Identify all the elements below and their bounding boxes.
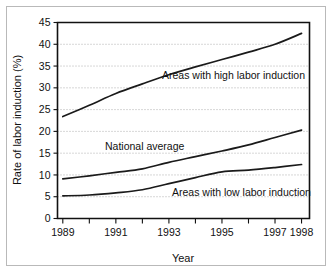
series-lines [63, 33, 302, 195]
x-tick-label: 1993 [157, 226, 181, 238]
y-tick-label: 15 [39, 147, 51, 159]
x-tick-label: 1998 [290, 226, 314, 238]
y-tick-label: 40 [39, 38, 51, 50]
series-label-national: National average [105, 140, 185, 152]
y-axis-title: Rate of labor induction (%) [11, 55, 23, 185]
series-label-low: Areas with low labor induction [172, 186, 311, 198]
x-tick-label: 1989 [51, 226, 75, 238]
y-tick-label: 35 [39, 60, 51, 72]
x-tick-label: 1991 [104, 226, 128, 238]
x-axis-title: Year [172, 252, 195, 264]
series-label-high: Areas with high labor induction [162, 69, 305, 81]
y-tick-label: 0 [45, 212, 51, 224]
x-axis-tick-labels: 198919911993199519971998 [51, 226, 313, 238]
chart-figure: 051015202530354045 198919911993199519971… [0, 0, 333, 273]
x-tick-label: 1995 [210, 226, 234, 238]
gridlines [58, 44, 310, 196]
line-chart: 051015202530354045 198919911993199519971… [0, 0, 333, 273]
y-tick-label: 30 [39, 81, 51, 93]
x-tick-label: 1997 [263, 226, 287, 238]
y-tick-label: 5 [45, 190, 51, 202]
series-line [63, 130, 302, 179]
y-tick-label: 20 [39, 125, 51, 137]
y-axis-tick-labels: 051015202530354045 [39, 16, 51, 224]
y-tick-label: 45 [39, 16, 51, 28]
y-tick-label: 25 [39, 103, 51, 115]
y-tick-label: 10 [39, 169, 51, 181]
